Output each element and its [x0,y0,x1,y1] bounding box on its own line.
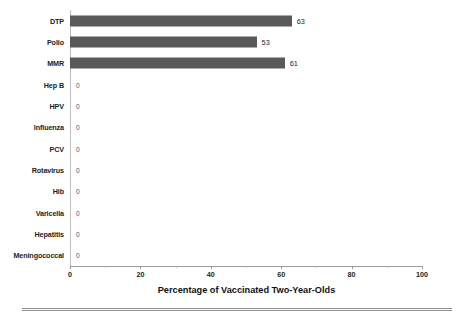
chart-row: Rotavirus0 [70,159,422,180]
x-tick-major [70,266,71,269]
x-tick-label: 80 [348,270,356,279]
bar-value-label: 0 [76,81,80,88]
x-tick-label: 0 [68,270,72,279]
bar [70,58,285,69]
category-label: Meningococcal [13,251,64,260]
bar-value-label: 0 [76,209,80,216]
x-tick-label: 100 [416,270,428,279]
x-tick-minor [176,266,177,268]
bar-value-label: 61 [290,59,298,68]
chart-row: MMR61 [70,53,422,74]
category-label: Varicella [36,208,64,217]
plot-area: DTP63Polio53MMR61Hep B0HPV0Influenza0PCV… [70,10,422,266]
bar-chart-figure: DTP63Polio53MMR61Hep B0HPV0Influenza0PCV… [0,0,460,318]
category-label: Influenza [34,123,64,132]
x-tick-label: 20 [136,270,144,279]
category-label: MMR [47,59,64,68]
category-label: Polio [47,37,64,46]
x-tick-minor [387,266,388,268]
chart-row: Hepatitis0 [70,223,422,244]
bar-value-label: 0 [76,102,80,109]
x-tick-label: 60 [277,270,285,279]
bar-value-label: 63 [297,16,305,25]
footer-rule [22,308,452,311]
x-tick-major [281,266,282,269]
chart-row: DTP63 [70,10,422,31]
bar-value-label: 0 [76,230,80,237]
chart-row: HPV0 [70,95,422,116]
x-tick-major [422,266,423,269]
x-axis-title: Percentage of Vaccinated Two-Year-Olds [70,285,423,295]
category-label: PCV [50,144,64,153]
chart-row: PCV0 [70,138,422,159]
x-tick-minor [246,266,247,268]
category-label: Rotavirus [32,165,64,174]
bar [70,36,257,47]
chart-row: Polio53 [70,31,422,52]
bar-value-label: 53 [262,37,270,46]
chart-row: Hep B0 [70,74,422,95]
bar-value-label: 0 [76,252,80,259]
chart-row: Hib0 [70,181,422,202]
chart-row: Influenza0 [70,117,422,138]
bar-value-label: 0 [76,188,80,195]
x-tick-minor [316,266,317,268]
chart-row: Meningococcal0 [70,245,422,266]
x-tick-label: 40 [207,270,215,279]
x-tick-major [352,266,353,269]
bar [70,15,292,26]
bar-value-label: 0 [76,145,80,152]
x-tick-major [140,266,141,269]
category-label: Hepatitis [35,229,64,238]
bar-value-label: 0 [76,124,80,131]
x-tick-major [211,266,212,269]
category-label: Hib [53,187,64,196]
category-label: DTP [50,16,64,25]
category-label: HPV [50,101,64,110]
x-tick-minor [105,266,106,268]
chart-row: Varicella0 [70,202,422,223]
bar-value-label: 0 [76,166,80,173]
category-label: Hep B [44,80,64,89]
